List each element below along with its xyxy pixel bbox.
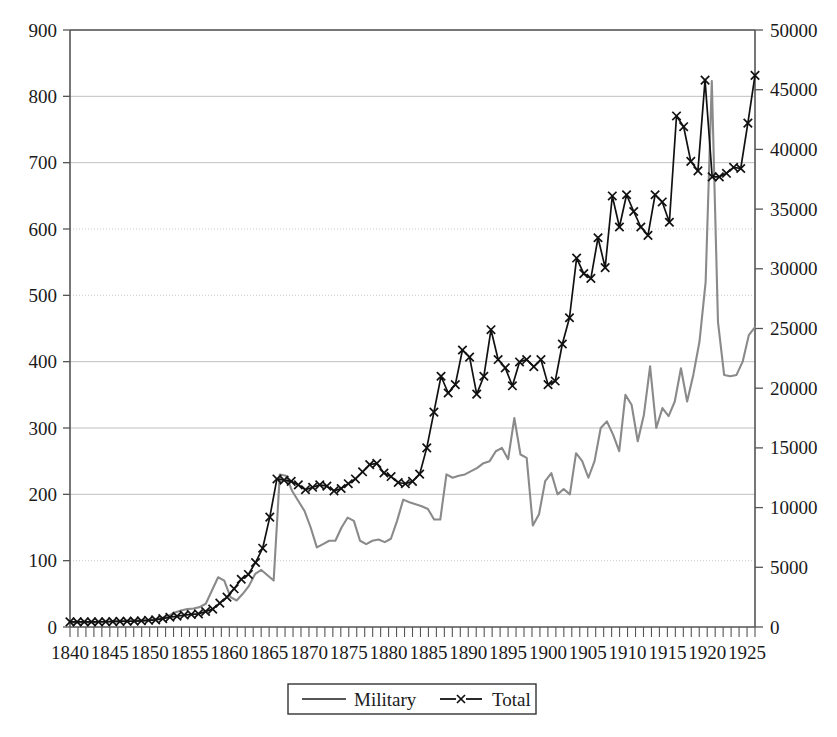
x-axis-label: 1875 bbox=[330, 642, 368, 663]
y-right-tick-label: 50000 bbox=[770, 20, 818, 41]
y-right-tick-label: 5000 bbox=[770, 557, 808, 578]
y-right-tick-label: 35000 bbox=[770, 199, 818, 220]
x-axis-label: 1850 bbox=[131, 642, 169, 663]
x-axis-label: 1840 bbox=[51, 642, 89, 663]
x-axis-label: 1885 bbox=[409, 642, 447, 663]
y-left-tick-label: 600 bbox=[29, 219, 58, 240]
y-right-tick-label: 45000 bbox=[770, 79, 818, 100]
y-left-tick-label: 700 bbox=[29, 152, 58, 173]
x-axis-label: 1925 bbox=[728, 642, 766, 663]
x-axis-label: 1855 bbox=[170, 642, 208, 663]
legend-label-total: Total bbox=[492, 689, 531, 710]
y-right-tick-label: 15000 bbox=[770, 437, 818, 458]
x-axis-label: 1860 bbox=[210, 642, 248, 663]
y-left-tick-label: 500 bbox=[29, 285, 58, 306]
x-axis-label: 1920 bbox=[688, 642, 726, 663]
x-axis-label: 1900 bbox=[529, 642, 567, 663]
y-left-tick-label: 900 bbox=[29, 20, 58, 41]
line-chart-canvas: 0100200300400500600700800900 05000100001… bbox=[0, 0, 837, 737]
chart-legend: MilitaryTotal bbox=[288, 684, 536, 714]
x-axis-label: 1845 bbox=[91, 642, 129, 663]
x-axis-label: 1865 bbox=[250, 642, 288, 663]
y-right-tick-label: 40000 bbox=[770, 139, 818, 160]
y-right-tick-label: 30000 bbox=[770, 258, 818, 279]
x-axis-label: 1890 bbox=[449, 642, 487, 663]
y-right-tick-label: 20000 bbox=[770, 378, 818, 399]
y-right-tick-label: 25000 bbox=[770, 318, 818, 339]
x-axis-label: 1895 bbox=[489, 642, 527, 663]
x-axis-label: 1880 bbox=[370, 642, 408, 663]
x-axis-label: 1915 bbox=[648, 642, 686, 663]
y-left-tick-label: 200 bbox=[29, 484, 58, 505]
chart-figure: 0100200300400500600700800900 05000100001… bbox=[0, 0, 837, 737]
x-axis-labels: 1840184518501855186018651870187518801885… bbox=[51, 642, 766, 663]
y-left-tick-label: 800 bbox=[29, 86, 58, 107]
y-right-tick-label: 10000 bbox=[770, 497, 818, 518]
x-axis-label: 1870 bbox=[290, 642, 328, 663]
legend-label-military: Military bbox=[354, 689, 417, 710]
y-left-tick-label: 0 bbox=[48, 617, 58, 638]
y-left-tick-label: 400 bbox=[29, 351, 58, 372]
y-right-tick-label: 0 bbox=[770, 617, 780, 638]
x-axis-label: 1905 bbox=[569, 642, 607, 663]
y-left-tick-label: 100 bbox=[29, 550, 58, 571]
y-left-tick-label: 300 bbox=[29, 418, 58, 439]
x-axis-label: 1910 bbox=[609, 642, 647, 663]
